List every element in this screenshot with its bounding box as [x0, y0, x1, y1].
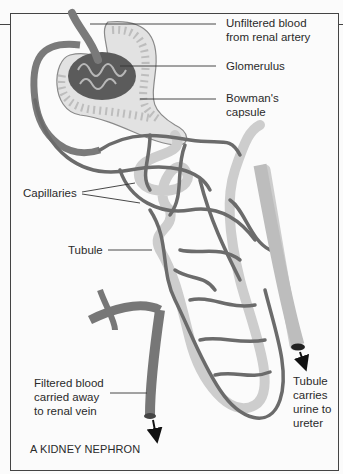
- label-tubule: Tubule: [68, 243, 103, 257]
- diagram-title: A KIDNEY NEPHRON: [30, 443, 140, 455]
- label-unfiltered-blood: Unfiltered blood from renal artery: [226, 16, 310, 44]
- label-glomerulus: Glomerulus: [226, 59, 285, 73]
- label-bowmans-capsule: Bowman's capsule: [226, 91, 279, 119]
- label-filtered-blood: Filtered blood carried away to renal vei…: [34, 376, 104, 418]
- glomerulus-icon: [68, 52, 136, 100]
- label-tubule-urine: Tubule carries urine to ureter: [293, 374, 331, 430]
- label-capillaries: Capillaries: [23, 186, 77, 200]
